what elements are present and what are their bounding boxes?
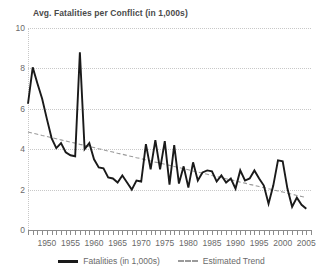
y-tick-label-8: 8 [0,63,29,73]
legend-line-solid-icon [58,260,78,263]
x-tick-1982 [198,230,199,235]
x-tick-1969 [136,230,137,235]
chart-title: Avg. Fatalities per Conflict (in 1,000s) [33,8,188,18]
plot-area: 0246810 19501955196019651970197519801985… [28,28,311,230]
x-tick-label-1995: 1995 [250,238,269,248]
x-tick-1967 [127,230,128,235]
x-tick-1978 [179,230,180,235]
x-tick-2005 [306,230,307,235]
x-tick-1980 [188,230,189,235]
x-tick-1956 [75,230,76,235]
x-tick-1965 [118,230,119,235]
x-tick-1955 [70,230,71,235]
legend-label-estimated-trend: Estimated Trend [203,256,265,266]
x-tick-1983 [203,230,204,235]
x-tick-1984 [207,230,208,235]
x-tick-2003 [297,230,298,235]
series-lines [28,28,311,230]
x-tick-1948 [37,230,38,235]
x-tick-label-2000: 2000 [273,238,292,248]
x-tick-label-1975: 1975 [155,238,174,248]
x-tick-label-1960: 1960 [85,238,104,248]
x-tick-1999 [278,230,279,235]
x-tick-1957 [80,230,81,235]
x-tick-label-1965: 1965 [108,238,127,248]
x-tick-1979 [184,230,185,235]
x-tick-1996 [264,230,265,235]
x-tick-1977 [174,230,175,235]
series-fatalities-line [28,52,306,209]
y-tick-label-0: 0 [0,225,29,235]
x-tick-label-1990: 1990 [226,238,245,248]
x-tick-1990 [236,230,237,235]
x-tick-1946 [28,230,29,235]
x-tick-2006 [311,230,312,235]
x-tick-2004 [302,230,303,235]
x-tick-1971 [146,230,147,235]
legend-label-fatalities: Fatalities (in 1,000s) [83,256,160,266]
x-tick-1989 [231,230,232,235]
x-tick-label-2005: 2005 [297,238,316,248]
x-tick-1985 [212,230,213,235]
x-tick-1973 [155,230,156,235]
x-tick-1998 [273,230,274,235]
x-tick-1952 [56,230,57,235]
x-tick-1972 [151,230,152,235]
y-tick-label-10: 10 [0,23,29,33]
x-tick-1962 [103,230,104,235]
x-tick-1995 [259,230,260,235]
x-tick-1951 [52,230,53,235]
legend-item-estimated-trend: Estimated Trend [178,256,265,266]
x-tick-label-1950: 1950 [37,238,56,248]
x-tick-1963 [108,230,109,235]
y-tick-label-2: 2 [0,185,29,195]
x-tick-1954 [66,230,67,235]
x-tick-1987 [221,230,222,235]
x-tick-1976 [170,230,171,235]
x-tick-1964 [113,230,114,235]
x-tick-label-1985: 1985 [202,238,221,248]
legend-item-fatalities: Fatalities (in 1,000s) [58,256,160,266]
x-tick-1991 [240,230,241,235]
x-tick-2002 [292,230,293,235]
chart-legend: Fatalities (in 1,000s) Estimated Trend [0,256,323,266]
x-tick-1986 [217,230,218,235]
x-tick-1992 [245,230,246,235]
y-tick-label-6: 6 [0,104,29,114]
x-tick-2001 [287,230,288,235]
x-tick-1994 [254,230,255,235]
x-tick-1947 [33,230,34,235]
x-tick-1953 [61,230,62,235]
x-tick-1997 [269,230,270,235]
x-tick-1959 [89,230,90,235]
x-tick-1950 [47,230,48,235]
y-tick-label-4: 4 [0,144,29,154]
x-tick-1970 [141,230,142,235]
chart-container: Avg. Fatalities per Conflict (in 1,000s)… [0,0,323,279]
x-tick-1993 [250,230,251,235]
x-tick-label-1955: 1955 [61,238,80,248]
x-tick-1961 [99,230,100,235]
x-tick-label-1970: 1970 [132,238,151,248]
x-tick-1960 [94,230,95,235]
x-tick-1988 [226,230,227,235]
x-tick-1968 [132,230,133,235]
legend-line-dashed-icon [178,260,198,262]
x-tick-label-1980: 1980 [179,238,198,248]
x-tick-1981 [193,230,194,235]
x-tick-1949 [42,230,43,235]
x-tick-1974 [160,230,161,235]
x-tick-2000 [283,230,284,235]
x-tick-1966 [122,230,123,235]
x-tick-1958 [85,230,86,235]
x-tick-1975 [165,230,166,235]
